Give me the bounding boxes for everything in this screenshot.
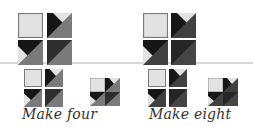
plain-light-square	[143, 13, 168, 38]
triangle-unit-top-light	[47, 13, 72, 38]
plain-light-square-small	[148, 69, 166, 87]
triangle-unit-top-light-small	[45, 69, 63, 87]
half-square-dark-dark	[171, 40, 196, 65]
half-square-dark-medium-small	[45, 89, 63, 107]
caption-make-eight: Make eight	[149, 106, 231, 122]
caption-make-four: Make four	[22, 106, 97, 122]
triangle-unit-left-light-small	[148, 89, 166, 107]
triangle-unit-left-light-small	[24, 89, 42, 107]
triangle-unit-top-light-small	[169, 69, 187, 87]
triangle-unit-left-light	[18, 40, 43, 65]
plain-light-square	[18, 13, 43, 38]
triangle-unit-top-light	[171, 13, 196, 38]
assembled-block-eight	[208, 78, 238, 106]
half-square-dark-dark-small	[169, 89, 187, 107]
triangle-unit-left-light	[143, 40, 168, 65]
assembled-block-four	[90, 78, 120, 106]
plain-light-square-small	[24, 69, 42, 87]
half-square-dark-medium	[47, 40, 72, 65]
